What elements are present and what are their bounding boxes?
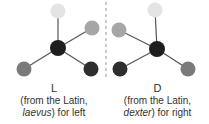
- d-letter: D: [106, 82, 209, 94]
- l-label: L (from the Latin, laevus) for left: [4, 82, 104, 119]
- d-latin-word: dexter: [124, 107, 152, 118]
- l-line2-suffix: ) for left: [52, 107, 86, 118]
- d-line1: (from the Latin,: [124, 95, 191, 106]
- l-latin-word: laevus: [23, 107, 52, 118]
- atom-lower-right: [84, 62, 99, 77]
- d-molecule: [112, 3, 196, 77]
- l-line1: (from the Latin,: [20, 95, 87, 106]
- atom-lower-left: [17, 62, 32, 77]
- atom-upper-left: [112, 23, 127, 38]
- l-letter: L: [4, 82, 104, 94]
- d-line2-suffix: ) for right: [151, 107, 191, 118]
- atom-top: [51, 4, 66, 19]
- l-molecule: [17, 4, 100, 77]
- atom-top: [148, 3, 163, 18]
- atom-center: [50, 40, 66, 56]
- atom-lower-right: [181, 62, 196, 77]
- atom-center: [149, 41, 165, 57]
- atom-upper-right: [85, 21, 100, 36]
- atom-lower-left: [113, 62, 128, 77]
- d-label: D (from the Latin, dexter) for right: [106, 82, 209, 119]
